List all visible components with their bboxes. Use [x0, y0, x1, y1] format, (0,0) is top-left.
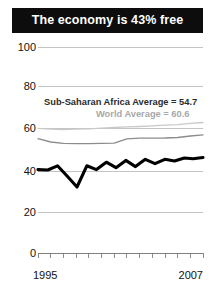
chart-canvas	[0, 36, 215, 268]
series-line-africa-average	[38, 135, 203, 144]
series-line-country	[38, 158, 203, 188]
economic-freedom-chart: The economy is 43% free 100 80 60 40 20 …	[0, 0, 215, 301]
annotation-africa-average: Sub-Saharan Africa Average = 54.7	[44, 98, 197, 107]
annotation-world-average: World Average = 60.6	[96, 110, 189, 119]
chart-title-bar: The economy is 43% free	[12, 8, 203, 33]
series-line-world-average	[38, 123, 203, 130]
x-tick-label-1995: 1995	[33, 270, 57, 281]
plot-area: 100 80 60 40 20 0	[0, 36, 215, 268]
x-axis	[38, 253, 203, 258]
x-axis-labels: 1995 2007	[0, 270, 215, 286]
page-title: The economy is 43% free	[32, 14, 184, 27]
gridlines	[38, 47, 203, 253]
x-tick-label-2007: 2007	[179, 270, 203, 281]
